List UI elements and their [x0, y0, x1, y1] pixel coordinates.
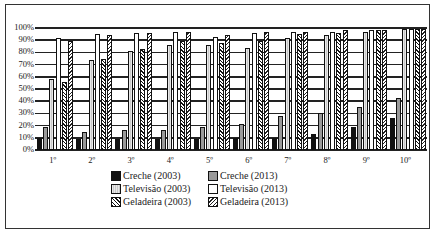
- bar-0-6: [272, 138, 277, 150]
- white-swatch-icon: [208, 184, 218, 194]
- gridline: [35, 27, 427, 29]
- bar-2-0: [49, 79, 54, 150]
- bar-1-1: [82, 132, 87, 150]
- x-tick-label: 8º: [312, 155, 342, 165]
- bar-2-1: [89, 60, 94, 150]
- gridline: [35, 39, 427, 41]
- legend-label: Televisão (2003): [123, 183, 190, 194]
- y-tick-label: 60%: [4, 72, 34, 81]
- legend-label: Geladeira (2003): [123, 196, 191, 207]
- bar-5-5: [264, 32, 269, 150]
- bar-2-5: [245, 48, 250, 150]
- legend-item: Televisão (2003): [111, 183, 190, 194]
- dense-hatch-swatch-icon: [111, 197, 121, 207]
- gridline: [35, 137, 427, 139]
- bar-4-5: [258, 41, 263, 150]
- bar-3-4: [213, 37, 218, 150]
- x-tick-label: 5º: [194, 155, 224, 165]
- x-tick-label: 9º: [351, 155, 381, 165]
- bar-0-1: [76, 139, 81, 150]
- bar-4-4: [219, 43, 224, 150]
- y-tick-label: 80%: [4, 47, 34, 56]
- y-tick-label: 10%: [4, 133, 34, 142]
- bar-2-7: [324, 35, 329, 150]
- bar-5-0: [68, 41, 73, 150]
- y-tick-label: 20%: [4, 121, 34, 130]
- legend-item: Geladeira (2013): [208, 196, 288, 207]
- bar-5-4: [225, 35, 230, 150]
- bar-2-9: [402, 29, 407, 150]
- bar-3-9: [409, 29, 414, 150]
- gridline: [35, 149, 427, 151]
- diagonal-hatch-swatch-icon: [208, 197, 218, 207]
- bar-4-9: [415, 29, 420, 150]
- y-tick-label: 40%: [4, 96, 34, 105]
- legend-item: Televisão (2013): [208, 183, 287, 194]
- bar-3-1: [95, 34, 100, 150]
- bar-3-7: [330, 32, 335, 150]
- bar-5-3: [186, 32, 191, 150]
- bar-1-4: [200, 127, 205, 150]
- bar-4-8: [376, 30, 381, 150]
- bar-2-6: [285, 38, 290, 150]
- bar-2-8: [363, 32, 368, 150]
- bar-4-3: [180, 41, 185, 150]
- gridline: [35, 64, 427, 66]
- y-tick-label: 0%: [4, 145, 34, 154]
- x-tick-label: 7º: [273, 155, 303, 165]
- light-striped-swatch-icon: [111, 184, 121, 194]
- gridline: [35, 113, 427, 115]
- bar-1-6: [278, 116, 283, 150]
- y-tick-label: 30%: [4, 108, 34, 117]
- bar-4-0: [62, 82, 67, 150]
- bar-2-4: [206, 45, 211, 150]
- bar-4-6: [297, 34, 302, 150]
- bar-5-2: [147, 33, 152, 150]
- solid-black-swatch-icon: [111, 171, 121, 181]
- bar-1-0: [43, 127, 48, 150]
- gridline: [35, 88, 427, 90]
- legend-item: Geladeira (2003): [111, 196, 191, 207]
- x-tick-label: 1º: [38, 155, 68, 165]
- gridline: [35, 52, 427, 54]
- bar-3-3: [173, 32, 178, 150]
- x-tick-label: 6º: [234, 155, 264, 165]
- bar-0-8: [351, 127, 356, 150]
- bar-0-5: [233, 138, 238, 150]
- legend-item: Creche (2013): [208, 170, 277, 181]
- bar-5-9: [421, 29, 426, 150]
- bar-1-7: [318, 113, 323, 150]
- bar-4-1: [101, 59, 106, 151]
- x-tick-label: 3º: [116, 155, 146, 165]
- bar-0-9: [390, 118, 395, 150]
- bar-0-2: [115, 139, 120, 150]
- bar-5-1: [107, 35, 112, 150]
- bar-5-7: [343, 30, 348, 150]
- gridline: [35, 125, 427, 127]
- bar-0-7: [311, 134, 316, 150]
- bar-0-4: [194, 139, 199, 150]
- bar-5-8: [382, 30, 387, 150]
- legend-label: Creche (2003): [123, 170, 180, 181]
- bar-3-2: [134, 33, 139, 150]
- bar-3-0: [56, 38, 61, 150]
- bar-0-0: [37, 138, 42, 150]
- bar-4-2: [140, 49, 145, 150]
- x-tick-label: 4º: [155, 155, 185, 165]
- bar-1-2: [122, 130, 127, 150]
- bar-1-9: [396, 98, 401, 150]
- y-tick-label: 50%: [4, 84, 34, 93]
- bar-2-3: [167, 45, 172, 150]
- bar-0-3: [155, 139, 160, 150]
- legend-label: Geladeira (2013): [220, 196, 288, 207]
- legend-item: Creche (2003): [111, 170, 180, 181]
- x-tick-label: 2º: [77, 155, 107, 165]
- bar-3-5: [252, 33, 257, 150]
- bar-3-6: [291, 32, 296, 150]
- legend-label: Creche (2013): [220, 170, 277, 181]
- y-tick-label: 70%: [4, 60, 34, 69]
- y-tick-label: 90%: [4, 35, 34, 44]
- gridline: [35, 76, 427, 78]
- bar-3-8: [369, 30, 374, 150]
- gridline: [35, 100, 427, 102]
